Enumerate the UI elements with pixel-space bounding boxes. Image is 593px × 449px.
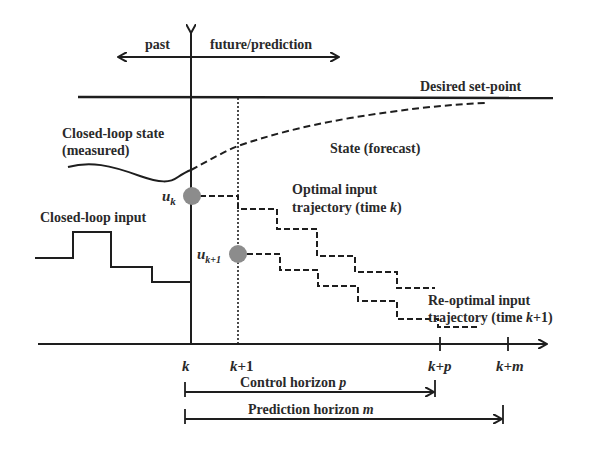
- prediction-horizon-label: Prediction horizon m: [248, 402, 374, 417]
- forecast-state-curve: [191, 103, 485, 170]
- tick-label-k: k: [182, 358, 190, 374]
- forecast-state-label: State (forecast): [330, 141, 421, 157]
- measured-state-label-1: Closed-loop state: [62, 126, 164, 141]
- control-horizon-label: Control horizon p: [240, 375, 346, 390]
- tick-label-k-plus-1: k+1: [230, 358, 254, 374]
- measured-state-label-2: (measured): [62, 143, 130, 159]
- past-label: past: [145, 37, 170, 52]
- setpoint-line: [78, 97, 553, 98]
- measured-state-curve: [68, 164, 191, 181]
- optimal-trajectory-label-1: Optimal input: [292, 182, 378, 197]
- future-label: future/prediction: [210, 37, 312, 52]
- uk-label: uk: [162, 188, 176, 207]
- setpoint-label: Desired set-point: [420, 79, 522, 94]
- closed-loop-input-line: [35, 232, 191, 282]
- tick-label-k-plus-p: k+p: [428, 358, 452, 374]
- uk1-marker: [229, 245, 247, 263]
- tick-label-k-plus-m: k+m: [496, 358, 524, 374]
- reoptimal-trajectory-label-1: Re-optimal input: [428, 293, 531, 308]
- uk1-label: uk+1: [197, 246, 221, 265]
- optimal-trajectory-label-2: trajectory (time k): [292, 200, 402, 216]
- uk-marker: [183, 187, 201, 205]
- closed-loop-input-label: Closed-loop input: [40, 210, 147, 225]
- reoptimal-trajectory-label-2: trajectory (time k+1): [428, 310, 553, 326]
- mpc-diagram: past future/prediction Desired set-point…: [0, 0, 593, 449]
